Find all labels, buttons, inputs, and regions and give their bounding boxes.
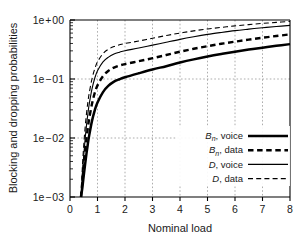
x-tick-label: 0	[67, 203, 73, 215]
x-tick-label: 4	[177, 203, 183, 215]
x-tick-label: 2	[122, 203, 128, 215]
y-tick-label: 1e − 03	[33, 191, 64, 203]
x-tick-label: 6	[232, 203, 238, 215]
y-tick-labels: 1e + 001e − 011e − 021e − 03	[33, 14, 64, 203]
x-tick-label: 1	[95, 203, 101, 215]
legend-label: Bn, data	[209, 144, 244, 156]
y-tick-label: 1e + 00	[33, 14, 64, 26]
chart-figure: 012345678 1e + 001e − 011e − 021e − 03 N…	[0, 0, 307, 241]
x-ticks	[70, 197, 290, 201]
legend-label: D, data	[212, 173, 243, 184]
x-tick-label: 7	[260, 203, 266, 215]
x-tick-labels: 012345678	[67, 203, 293, 215]
y-tick-label: 1e − 02	[33, 132, 64, 144]
legend-label: D, voice	[209, 159, 243, 170]
x-tick-label: 5	[205, 203, 211, 215]
chart-legend: Bn, voiceBn, dataD, voiceD, data	[176, 126, 290, 186]
y-tick-label: 1e − 01	[33, 73, 64, 85]
x-axis-title: Nominal load	[148, 222, 212, 234]
y-ticks	[70, 20, 75, 197]
x-tick-label: 8	[287, 203, 293, 215]
blocking-dropping-probability-chart: 012345678 1e + 001e − 011e − 021e − 03 N…	[0, 0, 307, 241]
y-axis-title: Blocking and dropping probabilities	[7, 22, 19, 193]
legend-label: Bn, voice	[205, 130, 243, 142]
x-tick-label: 3	[150, 203, 156, 215]
